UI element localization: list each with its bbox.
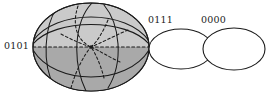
shaded-ellipsoid — [33, 3, 149, 91]
diagram-canvas — [0, 0, 267, 93]
right-ellipse — [203, 28, 265, 70]
label-0101: 0101 — [4, 41, 29, 51]
label-0000: 0000 — [201, 15, 226, 25]
label-0111: 0111 — [148, 15, 173, 25]
center-node — [89, 45, 92, 48]
figure-container: 0101 0111 0000 — [0, 0, 267, 93]
